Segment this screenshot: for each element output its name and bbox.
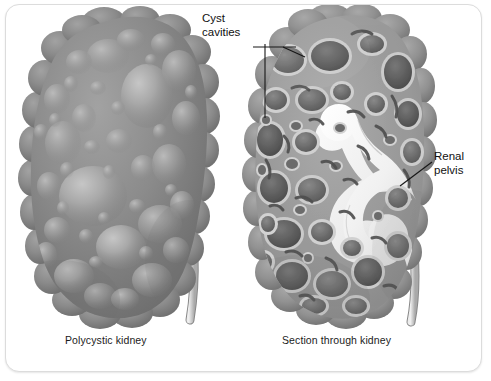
callout-renal-pelvis-line1: Renal: [434, 150, 464, 164]
callout-cyst-cavities-line1: Cyst: [202, 12, 240, 26]
caption-polycystic-kidney: Polycystic kidney: [65, 334, 147, 346]
caption-section-through-kidney: Section through kidney: [282, 334, 391, 346]
callout-cyst-cavities: Cyst cavities: [202, 12, 240, 39]
kidney-illustration: [0, 0, 491, 381]
polycystic-kidney-exterior: [0, 6, 235, 340]
figure-root: Cyst cavities Renal pelvis Polycystic ki…: [0, 0, 491, 381]
callout-cyst-cavities-line2: cavities: [202, 26, 240, 40]
callout-renal-pelvis: Renal pelvis: [434, 150, 464, 177]
polycystic-kidney-section: [230, 4, 452, 345]
callout-renal-pelvis-line2: pelvis: [434, 164, 464, 178]
